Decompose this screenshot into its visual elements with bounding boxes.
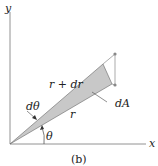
inner-point <box>113 83 116 86</box>
inner-radius-label: r <box>70 108 76 121</box>
outer-radius-label: r + dr <box>49 78 84 91</box>
caption: (b) <box>71 153 87 166</box>
outer-point <box>113 52 116 55</box>
da-label: dA <box>115 97 130 110</box>
outer-ray <box>103 54 115 64</box>
theta-label: θ <box>46 130 53 143</box>
x-axis-label: x <box>149 137 156 150</box>
da-leader <box>92 92 107 102</box>
theta-arc <box>42 127 44 144</box>
y-axis-label: y <box>4 2 12 15</box>
polar-area-diagram: y x r + dr r dθ θ dA (b) <box>0 0 158 166</box>
dtheta-label: dθ <box>26 100 40 113</box>
